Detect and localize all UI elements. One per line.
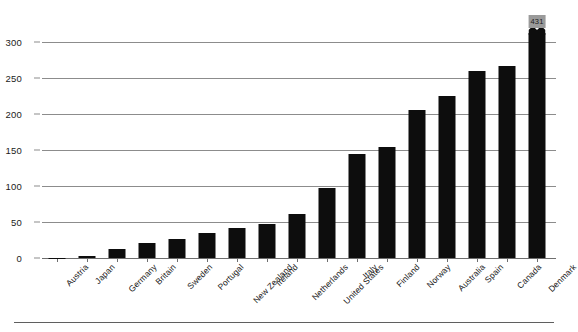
x-tick-australia <box>447 259 448 262</box>
y-tick-label-150: 150 <box>0 145 22 156</box>
y-tick-label-100: 100 <box>0 181 22 192</box>
x-label-slot-australia: Australia <box>432 259 462 317</box>
x-label-slot-italy: Italy <box>342 259 372 317</box>
bar-slot-canada[interactable] <box>492 10 522 258</box>
bar-slot-denmark[interactable]: 431 <box>522 10 552 258</box>
x-label-denmark: Denmark <box>546 262 578 294</box>
bar-portugal[interactable] <box>199 233 216 258</box>
x-tick-italy <box>357 259 358 262</box>
bar-slot-new-zealand[interactable] <box>222 10 252 258</box>
x-label-slot-portugal: Portugal <box>192 259 222 317</box>
bar-slot-austria[interactable] <box>42 10 72 258</box>
bar-new-zealand[interactable] <box>229 228 246 258</box>
x-label-slot-britain: Britain <box>132 259 162 317</box>
x-tick-norway <box>417 259 418 262</box>
bar-slot-finland[interactable] <box>372 10 402 258</box>
bar-slot-britain[interactable] <box>132 10 162 258</box>
bar-slot-australia[interactable] <box>432 10 462 258</box>
x-label-slot-canada: Canada <box>492 259 522 317</box>
bar-slot-united-states[interactable] <box>312 10 342 258</box>
x-label-slot-norway: Norway <box>402 259 432 317</box>
bar-japan[interactable] <box>79 256 96 258</box>
y-tick-label-300: 300 <box>0 37 22 48</box>
y-tick-dash-150 <box>34 150 40 151</box>
y-tick-dash-200 <box>34 114 40 115</box>
value-label-denmark: 431 <box>529 15 546 28</box>
x-label-slot-new-zealand: New Zealand <box>222 259 252 317</box>
x-label-slot-spain: Spain <box>462 259 492 317</box>
bar-britain[interactable] <box>139 243 156 258</box>
bar-italy[interactable] <box>349 154 366 258</box>
x-tick-netherlands <box>297 259 298 262</box>
x-label-slot-netherlands: Netherlands <box>282 259 312 317</box>
y-tick-dash-0 <box>34 258 40 259</box>
bar-germany[interactable] <box>109 249 126 258</box>
x-tick-spain <box>477 259 478 262</box>
bar-slot-ireland[interactable] <box>252 10 282 258</box>
bar-slot-sweden[interactable] <box>162 10 192 258</box>
x-label-slot-denmark: Denmark <box>522 259 552 317</box>
x-label-slot-ireland: Ireland <box>252 259 282 317</box>
x-label-slot-united-states: United States <box>312 259 342 317</box>
bars-layer: 431 <box>42 10 556 258</box>
x-axis-labels: Austria Japan Germany Britain Sweden Por… <box>42 259 556 317</box>
y-tick-label-0: 0 <box>0 253 22 264</box>
bar-canada[interactable] <box>499 66 516 258</box>
bar-slot-norway[interactable] <box>402 10 432 258</box>
y-tick-dash-50 <box>34 222 40 223</box>
bar-sweden[interactable] <box>169 239 186 258</box>
x-tick-ireland <box>267 259 268 262</box>
x-tick-sweden <box>177 259 178 262</box>
bar-slot-italy[interactable] <box>342 10 372 258</box>
x-tick-denmark <box>537 259 538 262</box>
x-tick-finland <box>387 259 388 262</box>
x-label-slot-finland: Finland <box>372 259 402 317</box>
bar-denmark[interactable] <box>529 33 546 258</box>
x-tick-germany <box>117 259 118 262</box>
bar-slot-germany[interactable] <box>102 10 132 258</box>
y-tick-label-250: 250 <box>0 73 22 84</box>
x-tick-new-zealand <box>237 259 238 262</box>
bar-netherlands[interactable] <box>289 214 306 258</box>
x-tick-japan <box>87 259 88 262</box>
bar-ireland[interactable] <box>259 224 276 258</box>
bar-slot-netherlands[interactable] <box>282 10 312 258</box>
x-tick-austria <box>57 259 58 262</box>
bar-slot-spain[interactable] <box>462 10 492 258</box>
bar-australia[interactable] <box>439 96 456 258</box>
bar-norway[interactable] <box>409 110 426 258</box>
x-label-slot-austria: Austria <box>42 259 72 317</box>
y-tick-dash-250 <box>34 78 40 79</box>
bar-slot-japan[interactable] <box>72 10 102 258</box>
plot-area: 300 250 200 150 100 50 0 <box>42 10 556 258</box>
bar-finland[interactable] <box>379 147 396 258</box>
y-tick-dash-100 <box>34 186 40 187</box>
bar-slot-portugal[interactable] <box>192 10 222 258</box>
x-tick-united-states <box>327 259 328 262</box>
x-tick-canada <box>507 259 508 262</box>
x-tick-britain <box>147 259 148 262</box>
bar-spain[interactable] <box>469 71 486 258</box>
y-tick-dash-300 <box>34 42 40 43</box>
x-label-slot-sweden: Sweden <box>162 259 192 317</box>
x-tick-portugal <box>207 259 208 262</box>
y-tick-label-200: 200 <box>0 109 22 120</box>
footer-divider <box>14 322 554 323</box>
bar-united-states[interactable] <box>319 188 336 258</box>
x-label-slot-germany: Germany <box>102 259 132 317</box>
x-label-slot-japan: Japan <box>72 259 102 317</box>
y-tick-label-50: 50 <box>0 217 22 228</box>
